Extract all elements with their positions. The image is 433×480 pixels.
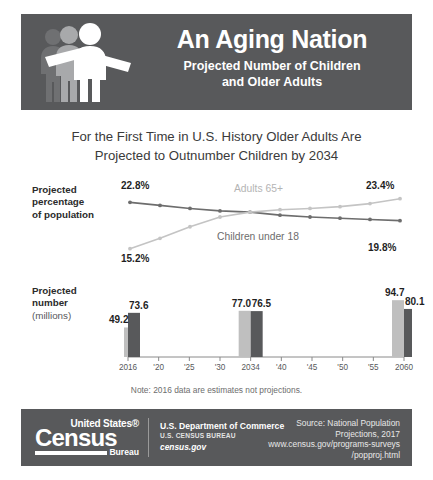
deck-text: For the First Time in U.S. History Older… [21, 127, 412, 165]
deck-line-2: Projected to Outnumber Children by 2034 [21, 146, 412, 165]
header-banner: An Aging Nation Projected Number of Chil… [21, 14, 412, 110]
bar-value-label: 77.0 [232, 298, 251, 309]
bar-chart-tick-label: '50 [327, 363, 359, 372]
bar-chart-plot [124, 283, 412, 375]
bar-chart-tick-label: '45 [296, 363, 328, 372]
page-title: An Aging Nation [141, 24, 403, 54]
footer-banner: United States® Census Bureau U.S. Depart… [21, 409, 412, 466]
bar-value-label: 73.6 [129, 300, 148, 311]
census-logo: United States® Census Bureau [35, 418, 139, 457]
line-chart-axis-label-line2: percentage [32, 196, 118, 208]
logo-bureau-word: Bureau [109, 447, 139, 457]
footer-source-line4[interactable]: /popproj.html [220, 450, 400, 461]
page-subtitle: Projected Number of Children and Older A… [141, 58, 403, 90]
footer-source: Source: National Population Projections,… [220, 418, 400, 460]
adults-start-value: 15.2% [121, 253, 149, 264]
bar-chart-tick-label: 2034 [235, 363, 267, 372]
series-label-children: Children under 18 [217, 231, 299, 242]
page-subtitle-line1: Projected Number of Children [141, 58, 403, 74]
bar-chart-tick-label: '25 [173, 363, 205, 372]
children-end-value: 19.8% [368, 242, 396, 253]
series-label-adults: Adults 65+ [234, 183, 283, 194]
bar-value-label: 76.5 [252, 298, 271, 309]
logo-rule [35, 451, 107, 455]
bar-value-label: 49.2 [109, 314, 128, 325]
logo-census-word: Census [35, 426, 117, 450]
bar-chart-tick-label: 2016 [112, 363, 144, 372]
bar-chart-axis-label-line3: (millions) [32, 310, 118, 322]
footer-source-line1: Source: National Population [220, 418, 400, 429]
bar-chart-tick-label: '55 [357, 363, 389, 372]
line-chart-axis-label: Projected percentage of population [32, 184, 118, 221]
bar-value-label: 80.1 [405, 296, 424, 307]
bar-chart-tick-label: '20 [143, 363, 175, 372]
bar-chart-axis-label-line1: Projected [32, 285, 118, 297]
adults-end-value: 23.4% [366, 180, 394, 191]
footer-url[interactable]: census.gov [160, 442, 206, 452]
infographic-page: An Aging Nation Projected Number of Chil… [0, 0, 433, 480]
bar-chart-axis-label-line2: number [32, 297, 118, 309]
footer-divider [148, 418, 149, 457]
line-chart-axis-label-line3: of population [32, 209, 118, 221]
chart-note: Note: 2016 data are estimates not projec… [21, 385, 412, 395]
children-start-value: 22.8% [121, 180, 149, 191]
bar-value-label: 94.7 [385, 287, 404, 298]
footer-source-line3[interactable]: www.census.gov/programs-surveys [220, 439, 400, 450]
line-chart-axis-label-line1: Projected [32, 184, 118, 196]
deck-line-1: For the First Time in U.S. History Older… [21, 127, 412, 146]
bar-chart-tick-label: 2060 [388, 363, 420, 372]
page-subtitle-line2: and Older Adults [141, 74, 403, 90]
bar-chart-axis-label: Projected number (millions) [32, 285, 118, 322]
three-people-icon [33, 22, 143, 104]
bar-chart: Projected number (millions) 2016'20'25'3… [21, 283, 412, 375]
bar-chart-tick-label: '30 [204, 363, 236, 372]
line-chart: Projected percentage of population 22.8%… [21, 178, 412, 270]
bar-chart-tick-label: '40 [265, 363, 297, 372]
footer-source-line2: Projections, 2017 [220, 429, 400, 440]
